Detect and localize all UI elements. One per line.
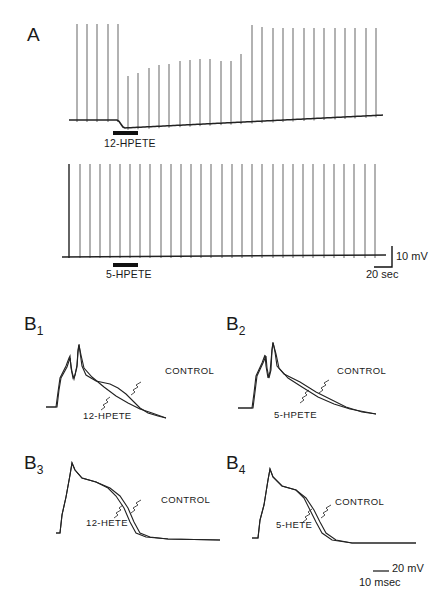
b4-5-hete-trace (252, 469, 416, 543)
trace-b4 (252, 469, 416, 543)
b3-drug-label: 12-HETE (86, 517, 128, 528)
b3-control-label: CONTROL (161, 494, 210, 505)
b1-drug-arrow (101, 397, 110, 410)
scale-voltage-b: 20 mV (392, 562, 424, 574)
b4-drug-label: 5-HETE (276, 519, 312, 530)
scale-bar-a (374, 246, 392, 267)
drug-application-bar-5-hpete (113, 263, 138, 267)
b1-drug-label: 12-HPETE (83, 410, 132, 421)
b1-12-hpete-trace (46, 345, 166, 418)
panel-label-b2: B2 (226, 313, 245, 335)
figure-canvas (0, 0, 445, 597)
b2-drug-label: 5-HPETE (274, 409, 317, 420)
scale-time-a: 20 sec (366, 268, 398, 280)
b2-control-arrow (319, 380, 329, 393)
b3-control-arrow (131, 500, 141, 513)
scale-time-b: 10 msec (359, 576, 401, 588)
b4-control-arrow (321, 505, 331, 518)
panel-label-b4: B4 (226, 452, 245, 474)
drug-label-5-hpete: 5-HPETE (106, 268, 152, 280)
b2-control-label: CONTROL (337, 365, 386, 376)
panel-label-b1: B1 (24, 313, 43, 335)
b1-control-arrow (131, 382, 141, 395)
trace-a2-5-hpete (62, 164, 386, 258)
trace-a1-12-hpete (69, 24, 383, 130)
trace-b2 (238, 342, 376, 414)
b1-control-label: CONTROL (165, 365, 214, 376)
b2-control-trace (238, 342, 376, 414)
drug-application-bar-12-hpete (113, 131, 138, 135)
trace-b1 (46, 344, 166, 418)
panel-label-b3: B3 (24, 452, 43, 474)
b2-drug-arrow (300, 390, 309, 403)
b2-5-hpete-trace (238, 343, 376, 414)
panel-label-a: A (27, 24, 40, 46)
scale-voltage-a: 10 mV (396, 250, 428, 262)
b1-control-trace (46, 344, 166, 418)
drug-label-12-hpete: 12-HPETE (104, 137, 156, 149)
b4-control-label: CONTROL (335, 496, 384, 507)
